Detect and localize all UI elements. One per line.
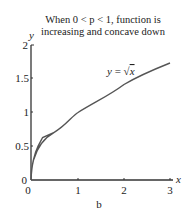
- y-axis-label: y: [28, 29, 34, 41]
- y-tick-2: 2: [23, 39, 29, 51]
- subfigure-label: b: [96, 198, 102, 210]
- x-axis-label: x: [175, 173, 181, 185]
- sqrt-curve: [31, 63, 170, 180]
- y-tick-0.5: 0.5: [15, 140, 29, 152]
- x-tick-2: 2: [121, 184, 127, 196]
- y-tick-1.5: 1.5: [15, 72, 29, 84]
- y-tick-1: 1: [24, 106, 30, 118]
- curve-annotation: y = √x: [106, 65, 135, 77]
- y-tick-0: 0: [22, 174, 28, 186]
- x-tick-1: 1: [75, 184, 81, 196]
- x-tick-3: 3: [167, 184, 173, 196]
- plot-area: 0 1 2 3 0 0.5 1 1.5 2 x y y = √x b: [0, 0, 192, 215]
